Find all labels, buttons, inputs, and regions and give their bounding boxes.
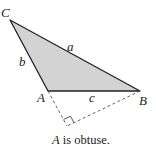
caption-vertex: A [51,133,60,147]
obtuse-triangle-diagram: C A B a b c A is obtuse. [0,0,156,149]
vertex-label-c: C [1,5,10,20]
caption: A is obtuse. [51,133,110,147]
side-label-c: c [89,90,95,105]
altitude-line-from-b [67,91,140,126]
side-label-a: a [67,39,74,54]
extension-line-ca [48,91,67,126]
vertex-label-b: B [139,93,147,108]
triangle-abc [10,20,140,91]
vertex-label-a: A [36,90,45,105]
side-label-b: b [19,54,26,69]
caption-text: is obtuse. [60,133,110,147]
